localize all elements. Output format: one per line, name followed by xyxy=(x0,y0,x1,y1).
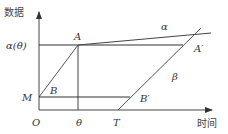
y-tick-m: M xyxy=(21,92,33,103)
origin-label: O xyxy=(32,117,40,128)
point-b-prime-label: B′ xyxy=(139,93,150,104)
x-axis-label: 时间 xyxy=(197,117,217,129)
timeline-diagram: 数据 时间 O α(θ) M θ T A A′ B B′ α β xyxy=(0,0,228,134)
segment-m-a xyxy=(39,45,78,97)
y-axis-label: 数据 xyxy=(4,6,24,18)
point-a-prime-label: A′ xyxy=(193,43,204,54)
alpha-line xyxy=(78,33,211,45)
point-b-label: B xyxy=(49,85,57,96)
x-tick-t: T xyxy=(113,117,121,128)
point-a-label: A xyxy=(73,31,81,42)
x-tick-theta: θ xyxy=(76,117,82,128)
beta-line-label: β xyxy=(171,71,178,82)
alpha-line-label: α xyxy=(161,21,168,32)
y-tick-alpha-theta: α(θ) xyxy=(6,40,27,51)
